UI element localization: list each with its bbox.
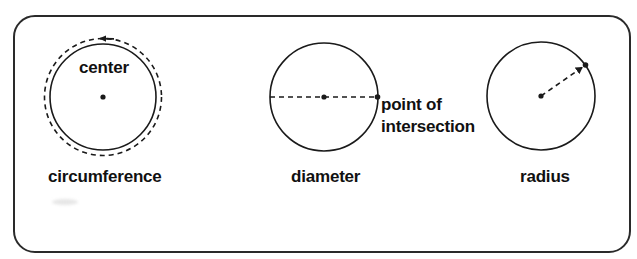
diameter-center-dot — [321, 94, 326, 99]
circumference-figure — [45, 35, 162, 155]
radius-center-dot — [538, 93, 543, 98]
center-label: center — [79, 58, 129, 77]
point-of-intersection-label: point of intersection — [381, 94, 475, 138]
diameter-figure — [270, 43, 380, 151]
radius-endpoint-dot — [583, 62, 589, 68]
point-of-intersection-line2: intersection — [381, 116, 475, 138]
diagram-canvas: center circumference diameter point of i… — [0, 0, 637, 259]
radius-dashed-arrow — [541, 68, 582, 97]
circle-figures — [0, 0, 637, 259]
circumference-label: circumference — [48, 167, 162, 186]
diameter-label: diameter — [291, 167, 360, 186]
point-of-intersection-line1: point of — [381, 94, 475, 116]
intersection-dot — [375, 94, 381, 100]
center-dot — [100, 94, 105, 99]
radius-label: radius — [520, 167, 570, 186]
circumference-arrow-icon — [99, 35, 114, 41]
radius-figure — [487, 42, 595, 150]
